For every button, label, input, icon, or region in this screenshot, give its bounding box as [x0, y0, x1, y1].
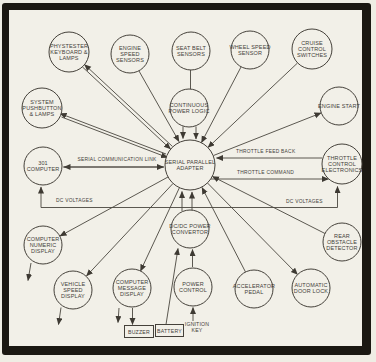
edge-phystester-adapter	[83, 67, 171, 149]
throttle-feedback-label: THROTTLE FEED BACK	[236, 149, 295, 154]
node-label-301-computer: 301 COMPUTER	[22, 145, 64, 187]
node-label-throttle-control: THROTTLE CONTROL ELECTRONICS	[321, 143, 363, 185]
node-label-rear-obstacle: REAR OBSTACLE DETECTOR	[321, 221, 363, 263]
throttle-command-label: THROTTLE COMMAND	[237, 170, 294, 175]
node-label-cruise: CRUISE CONTROL SWITCHES	[291, 28, 333, 70]
node-label-serial-parallel-adapter: SERIAL PARALLEL ADAPTER	[164, 139, 216, 191]
diagram-photo: PHYSTESTER KEYBOARD & LAMPS ENGINE SPEED…	[0, 0, 376, 362]
node-label-numeric-display: COMPUTER NUMERIC DISPLAY	[22, 224, 64, 266]
node-label-vehicle-speed: VEHICLE SPEED DISPLAY	[52, 269, 94, 311]
edge-pushbutton-adapter	[62, 117, 168, 158]
serial-communication-link-label: SERIAL COMMUNICATION LINK	[75, 157, 159, 162]
edge-adapter-pushbutton	[60, 114, 166, 155]
node-label-power-control: POWER CONTROL	[172, 266, 214, 308]
node-label-wheel-speed: WHEEL SPEED SENSOR	[229, 29, 271, 71]
node-label-continuous-power-logic: CONTINUOUS POWER LOGIC	[168, 87, 210, 129]
node-label-door-lock: AUTOMATIC DOOR LOCK	[290, 267, 332, 309]
dc-voltages-left-label: DC VOLTAGES	[56, 198, 93, 203]
node-label-seat-belt: SEAT BELT SENSORS	[170, 30, 212, 72]
node-label-convertor: DC/DC POWER CONVERTOR	[169, 208, 211, 250]
node-label-engine-start: ENGINE START	[318, 85, 360, 127]
ignition-key-label: IGNITION KEY	[180, 322, 214, 334]
node-label-system-pushbutton: SYSTEM PUSHBUTTON & LAMPS	[21, 87, 63, 129]
node-label-message-display: COMPUTER MESSAGE DISPLAY	[111, 267, 153, 309]
edge-adapter-phystester	[85, 65, 173, 147]
dc-voltages-right-label: DC VOLTAGES	[286, 199, 323, 204]
edge-message-output	[118, 308, 119, 323]
buzzer-box: BUZZER	[124, 325, 154, 338]
node-label-accelerator: ACCELERATOR PEDAL	[233, 268, 275, 310]
node-label-engine-speed: ENGINE SPEED SENSORS	[109, 33, 151, 75]
node-label-phystester: PHYSTESTER KEYBOARD & LAMPS	[48, 31, 90, 73]
